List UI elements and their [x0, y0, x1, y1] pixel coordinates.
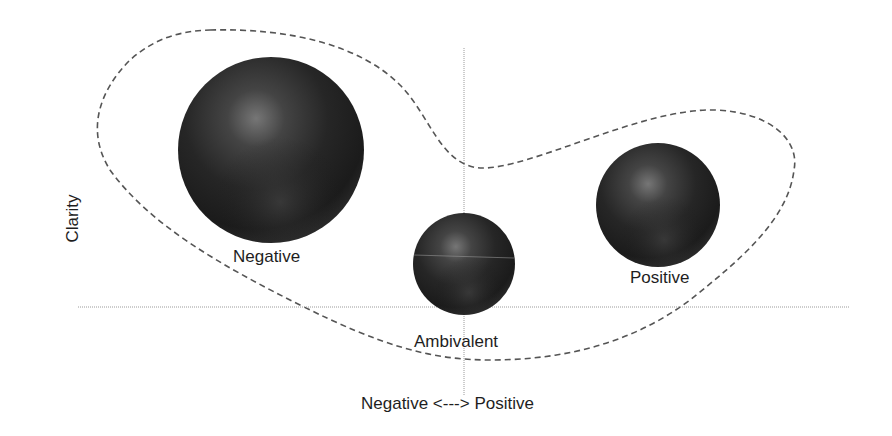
x-axis-label: Negative <---> Positive: [361, 395, 534, 412]
sphere-label-ambivalent: Ambivalent: [414, 333, 498, 350]
diagram-canvas: [0, 0, 892, 436]
sphere-negative: [178, 57, 364, 243]
sphere-positive: [596, 143, 720, 267]
sphere-ambivalent: [413, 213, 515, 315]
y-axis-label: Clarity: [64, 194, 81, 242]
sphere-label-negative: Negative: [233, 248, 300, 265]
sphere-label-positive: Positive: [630, 269, 690, 286]
